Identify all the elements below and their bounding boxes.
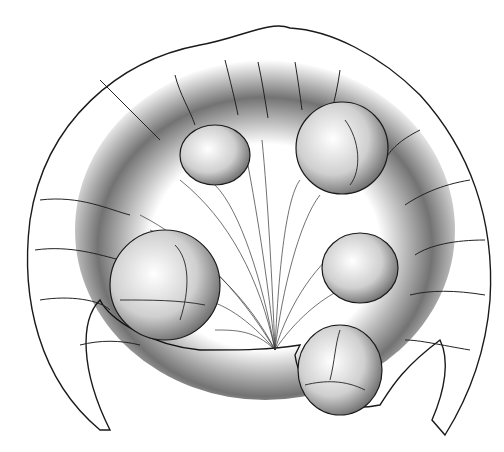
right-body [322,233,398,303]
inner-shaded-ring [75,60,455,400]
top-right-body [296,102,388,194]
bottom-right-body [298,325,382,415]
left-body [110,230,220,340]
top-left-body [180,125,250,185]
illustration-canvas [0,0,504,452]
